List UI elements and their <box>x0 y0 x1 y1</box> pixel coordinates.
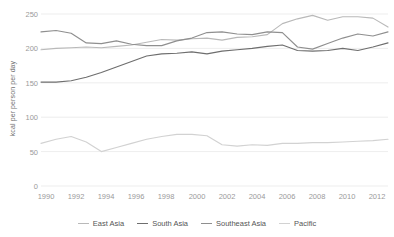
legend-label-east-asia: East Asia <box>93 219 124 228</box>
cropped-chart-title <box>8 0 388 6</box>
legend-swatch-east-asia <box>78 223 89 224</box>
y-axis-ticks: 250 200 150 100 50 0 <box>0 0 38 237</box>
x-tick-2002: 2002 <box>219 192 236 201</box>
x-tick-1996: 1996 <box>128 192 145 201</box>
x-tick-2012: 2012 <box>369 192 386 201</box>
legend-item-pacific[interactable]: Pacific <box>279 219 316 228</box>
y-tick-0: 0 <box>16 182 38 191</box>
chart-figure: kcal per person per day 250 200 150 100 … <box>0 0 394 237</box>
x-tick-1998: 1998 <box>158 192 175 201</box>
legend-label-southeast-asia: Southeast Asia <box>216 219 266 228</box>
y-tick-250: 250 <box>16 10 38 19</box>
plot-area <box>41 14 388 186</box>
y-tick-50: 50 <box>16 147 38 156</box>
y-tick-150: 150 <box>16 78 38 87</box>
x-tick-1990: 1990 <box>38 192 55 201</box>
legend-label-pacific: Pacific <box>294 219 316 228</box>
series-line-pacific <box>41 134 388 151</box>
x-tick-2004: 2004 <box>249 192 266 201</box>
x-tick-1994: 1994 <box>98 192 115 201</box>
legend-swatch-south-asia <box>137 223 148 224</box>
legend-swatch-southeast-asia <box>201 223 212 224</box>
legend-swatch-pacific <box>279 223 290 224</box>
x-tick-2008: 2008 <box>309 192 326 201</box>
chart-legend: East Asia South Asia Southeast Asia Paci… <box>0 219 394 228</box>
legend-item-southeast-asia[interactable]: Southeast Asia <box>201 219 266 228</box>
legend-item-east-asia[interactable]: East Asia <box>78 219 124 228</box>
line-chart-svg <box>41 14 388 186</box>
legend-label-south-asia: South Asia <box>152 219 188 228</box>
x-tick-2010: 2010 <box>339 192 356 201</box>
series-line-southeast-asia <box>41 31 388 50</box>
x-tick-1992: 1992 <box>68 192 85 201</box>
y-tick-100: 100 <box>16 113 38 122</box>
legend-item-south-asia[interactable]: South Asia <box>137 219 188 228</box>
x-tick-2000: 2000 <box>189 192 206 201</box>
y-tick-200: 200 <box>16 44 38 53</box>
x-tick-2006: 2006 <box>279 192 296 201</box>
